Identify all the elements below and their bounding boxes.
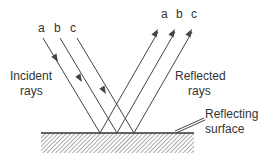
reflected-caption: Reflected rays bbox=[175, 69, 226, 98]
surface-pointer-line-2 bbox=[176, 120, 205, 133]
arrow-incident-c-icon bbox=[99, 86, 108, 96]
arrow-reflected-c-icon bbox=[185, 28, 194, 38]
reflected-label-c: c bbox=[191, 7, 197, 21]
incident-ray-a bbox=[43, 38, 100, 133]
surface-pointer-line-1 bbox=[175, 118, 204, 131]
reflected-caption-line1: Reflected bbox=[175, 69, 226, 83]
arrow-incident-b-icon bbox=[75, 74, 84, 84]
arrow-reflected-a-icon bbox=[151, 28, 160, 38]
incident-label-b: b bbox=[54, 21, 61, 35]
reflected-ray-b bbox=[117, 32, 175, 133]
arrow-reflected-b-icon bbox=[168, 28, 177, 38]
surface-caption-line2: surface bbox=[205, 122, 245, 136]
reflected-label-b: b bbox=[176, 7, 183, 21]
incident-label-c: c bbox=[70, 21, 76, 35]
reflected-ray-labels: a b c bbox=[161, 7, 197, 21]
surface-hatching bbox=[41, 133, 194, 153]
reflected-label-a: a bbox=[161, 7, 168, 21]
reflected-ray-a bbox=[100, 32, 158, 133]
incident-label-a: a bbox=[38, 21, 45, 35]
incident-caption: Incident rays bbox=[10, 69, 53, 98]
incident-ray-labels: a b c bbox=[38, 21, 76, 35]
surface-caption-line1: Reflecting bbox=[205, 107, 258, 121]
incident-rays bbox=[43, 38, 134, 133]
reflection-diagram: a b c a b c Incident rays Reflected rays… bbox=[0, 0, 260, 158]
reflecting-surface bbox=[41, 133, 194, 153]
incident-caption-line1: Incident bbox=[10, 69, 53, 83]
reflected-caption-line2: rays bbox=[188, 84, 211, 98]
surface-caption: Reflecting surface bbox=[175, 107, 258, 136]
incident-caption-line2: rays bbox=[20, 84, 43, 98]
